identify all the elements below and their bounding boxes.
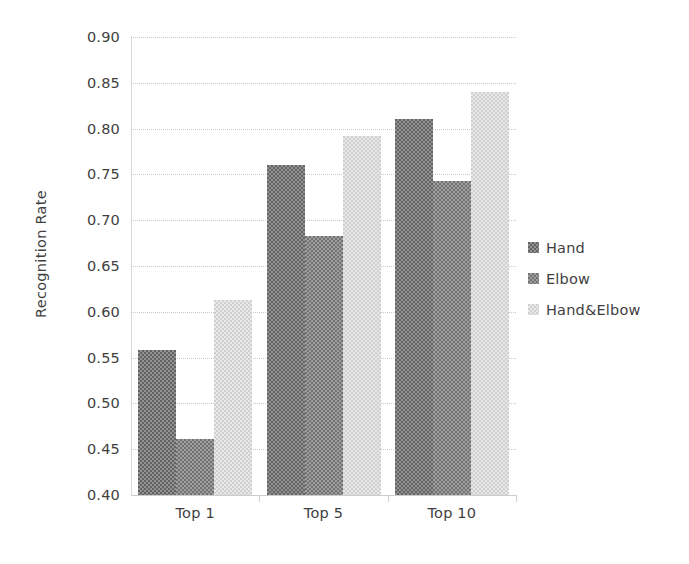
x-axis-tick-mark bbox=[388, 495, 389, 502]
y-axis-tick-label: 0.60 bbox=[50, 304, 120, 320]
bar-elbow-top-10 bbox=[433, 181, 471, 495]
y-axis-tick-label: 0.50 bbox=[50, 395, 120, 411]
x-axis-tick-label: Top 1 bbox=[176, 505, 215, 521]
legend-item-label: Hand&Elbow bbox=[546, 302, 641, 318]
y-axis-tick-label: 0.85 bbox=[50, 75, 120, 91]
gridline bbox=[131, 37, 516, 38]
bar-elbow-top-5 bbox=[305, 236, 343, 495]
y-axis-tick-label: 0.90 bbox=[50, 29, 120, 45]
y-axis-tick-label: 0.65 bbox=[50, 258, 120, 274]
y-axis-tick-label: 0.55 bbox=[50, 350, 120, 366]
bar-elbow-top-1 bbox=[176, 439, 214, 495]
legend-item-label: Hand bbox=[546, 240, 585, 256]
legend-swatch-icon bbox=[528, 242, 539, 253]
x-axis-tick-mark bbox=[516, 495, 517, 502]
gridline bbox=[131, 129, 516, 130]
bar-hand-and-elbow-top-10 bbox=[471, 92, 509, 495]
bar-hand-top-10 bbox=[395, 119, 433, 495]
chart-legend: HandElbowHand&Elbow bbox=[528, 232, 683, 325]
x-axis-tick-label: Top 5 bbox=[304, 505, 343, 521]
legend-item-hand: Hand bbox=[528, 232, 683, 263]
bar-hand-top-5 bbox=[267, 165, 305, 495]
bar-chart: Recognition Rate 0.900.850.800.750.700.6… bbox=[0, 0, 689, 564]
y-axis-tick-label: 0.80 bbox=[50, 121, 120, 137]
legend-swatch-icon bbox=[528, 273, 539, 284]
plot-area bbox=[131, 37, 516, 495]
x-axis-tick-label: Top 10 bbox=[427, 505, 476, 521]
gridline bbox=[131, 83, 516, 84]
gridline bbox=[131, 495, 516, 496]
bar-hand-top-1 bbox=[138, 350, 176, 495]
legend-item-hand-and-elbow: Hand&Elbow bbox=[528, 294, 683, 325]
gridline bbox=[131, 174, 516, 175]
legend-item-label: Elbow bbox=[546, 271, 590, 287]
bar-hand-and-elbow-top-1 bbox=[214, 300, 252, 495]
x-axis-tick-mark bbox=[259, 495, 260, 502]
bar-hand-and-elbow-top-5 bbox=[343, 136, 381, 495]
legend-swatch-icon bbox=[528, 304, 539, 315]
y-axis-tick-label: 0.70 bbox=[50, 212, 120, 228]
y-axis-tick-label: 0.40 bbox=[50, 487, 120, 503]
y-axis-tick-label: 0.75 bbox=[50, 166, 120, 182]
legend-item-elbow: Elbow bbox=[528, 263, 683, 294]
y-axis-tick-labels: 0.900.850.800.750.700.650.600.550.500.45… bbox=[45, 37, 120, 495]
y-axis-tick-label: 0.45 bbox=[50, 441, 120, 457]
